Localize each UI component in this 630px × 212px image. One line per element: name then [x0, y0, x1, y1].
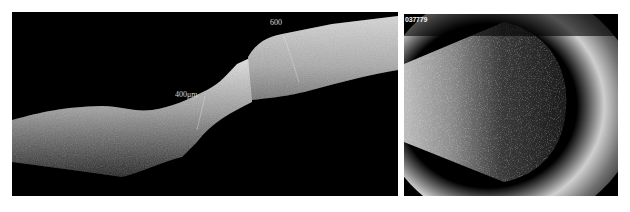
ultrasound-graphic [404, 14, 618, 196]
ultrasound-bscan-image: 037779 [404, 14, 618, 196]
oct-measure-label-400: 400μm [175, 90, 198, 99]
oct-scan-image: 400μm 600 [12, 12, 398, 196]
oct-tissue-graphic [12, 12, 398, 196]
scan-id-label: 037779 [405, 16, 427, 23]
oct-measure-label-600: 600 [270, 18, 282, 27]
